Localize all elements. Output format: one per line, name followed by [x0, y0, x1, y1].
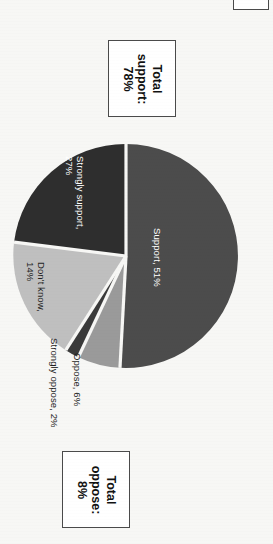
pie-chart	[13, 143, 239, 369]
callout-total-support: Total support: 78%	[108, 40, 176, 117]
clipped-callout-box	[233, 0, 269, 10]
slice-label-dont-know: Don't know, 14%	[25, 262, 47, 312]
pie-slice-support	[120, 144, 238, 368]
slice-label-support: Support, 51%	[152, 228, 163, 287]
chart-canvas: Strongly support, 27% Support, 51% Don't…	[0, 0, 273, 544]
slice-label-strongly-oppose: Strongly oppose, 2%	[49, 338, 60, 428]
callout-total-support-text: Total support: 78%	[120, 53, 164, 104]
callout-total-oppose: Total oppose: 8%	[62, 451, 130, 528]
slice-label-strongly-support: Strongly support, 27%	[64, 156, 86, 230]
callout-total-oppose-text: Total oppose: 8%	[74, 465, 118, 514]
slice-label-oppose: Oppose, 6%	[72, 353, 83, 406]
